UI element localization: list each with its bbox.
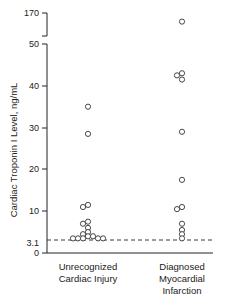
data-point bbox=[85, 202, 90, 207]
data-point bbox=[85, 104, 90, 109]
data-point bbox=[80, 204, 85, 209]
data-point bbox=[179, 236, 184, 241]
data-point bbox=[179, 177, 184, 182]
category-label-mi-line2: Myocardial bbox=[159, 273, 205, 284]
y-tick-170: 170 bbox=[24, 8, 39, 18]
data-point bbox=[179, 77, 184, 82]
category-label-mi-line3: Infarction bbox=[162, 285, 201, 296]
data-point bbox=[85, 131, 90, 136]
category-label-mi-line1: Diagnosed bbox=[159, 261, 204, 272]
data-point bbox=[75, 236, 80, 241]
data-point bbox=[80, 236, 85, 241]
y-tick-40: 40 bbox=[29, 81, 39, 91]
y-tick-30: 30 bbox=[29, 123, 39, 133]
data-point bbox=[70, 236, 75, 241]
data-point bbox=[179, 221, 184, 226]
category-label-unrecognized-line2: Cardiac Injury bbox=[59, 273, 118, 284]
data-point bbox=[174, 207, 179, 212]
data-point bbox=[90, 234, 95, 239]
y-tick-20: 20 bbox=[29, 164, 39, 174]
category-label-unrecognized-line1: Unrecognized bbox=[59, 261, 118, 272]
data-point bbox=[95, 236, 100, 241]
data-point bbox=[179, 204, 184, 209]
y-axis-break-segment bbox=[42, 13, 47, 36]
data-point bbox=[174, 73, 179, 78]
y-tick-3-1: 3.1 bbox=[26, 238, 39, 248]
y-tick-10: 10 bbox=[29, 206, 39, 216]
y-axis-label: Cardiac Troponin I Level, ng/mL bbox=[8, 83, 19, 218]
data-point bbox=[80, 221, 85, 226]
data-point bbox=[179, 19, 184, 24]
data-points bbox=[70, 19, 184, 241]
troponin-scatter-chart: Cardiac Troponin I Level, ng/mL 170 50 4… bbox=[0, 0, 228, 303]
data-point bbox=[179, 71, 184, 76]
data-point bbox=[179, 129, 184, 134]
y-tick-50: 50 bbox=[29, 39, 39, 49]
chart-svg: Cardiac Troponin I Level, ng/mL 170 50 4… bbox=[0, 0, 228, 303]
data-point bbox=[85, 219, 90, 224]
y-axis bbox=[42, 44, 47, 253]
data-point bbox=[100, 236, 105, 241]
data-point bbox=[85, 234, 90, 239]
y-tick-0: 0 bbox=[34, 248, 39, 258]
